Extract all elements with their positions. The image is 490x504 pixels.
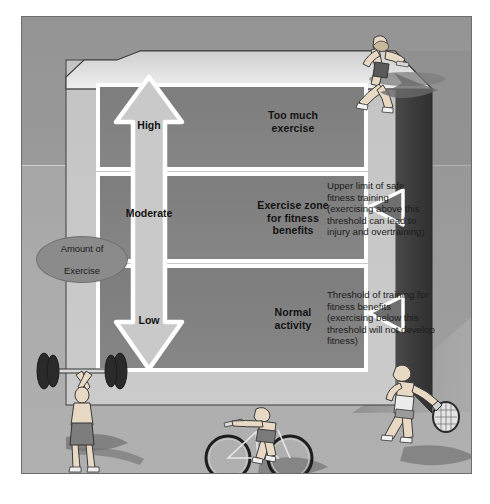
zone-label-line1: Too much bbox=[234, 109, 352, 122]
tennis-racket-icon bbox=[432, 401, 459, 432]
illustration-canvas: High Moderate Low Too much exercise Exer… bbox=[0, 0, 490, 504]
note-lower-threshold: Threshold of training for fitness benefi… bbox=[327, 289, 435, 347]
bubble-line1: Amount of bbox=[61, 243, 104, 254]
zone-label-too-much: Too much exercise bbox=[234, 109, 352, 134]
arrow-level-label-moderate: Moderate bbox=[106, 207, 192, 219]
illustration-panel: High Moderate Low Too much exercise Exer… bbox=[21, 16, 472, 474]
bubble-text: Amount of Exercise bbox=[61, 243, 104, 276]
amount-of-exercise-bubble: Amount of Exercise bbox=[36, 236, 128, 283]
arrow-level-label-high: High bbox=[106, 119, 192, 131]
note-upper-limit: Upper limit of safe fitness training (ex… bbox=[327, 180, 431, 238]
cyclist-figure-icon bbox=[206, 408, 328, 473]
zone-label-line2: exercise bbox=[234, 122, 352, 135]
arrow-level-label-low: Low bbox=[106, 314, 192, 326]
bubble-line2: Exercise bbox=[61, 265, 104, 276]
